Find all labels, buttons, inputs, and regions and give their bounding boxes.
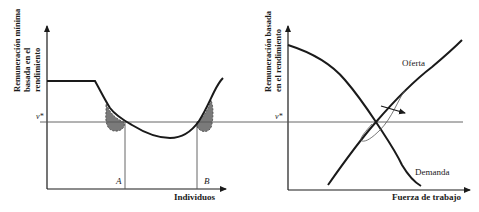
left-y-axis-label: Remuneración mínima basada en el rendimi…	[12, 8, 42, 92]
left-x-axis-label: Individuos	[174, 192, 216, 202]
right-vstar-label: v*	[275, 112, 283, 121]
marker-b-label: B	[204, 176, 210, 186]
svg-text:Remuneración basada: Remuneración basada	[263, 10, 273, 92]
shaded-region-b	[196, 100, 213, 132]
supply-curve	[328, 40, 462, 185]
marker-a-label: A	[115, 176, 122, 186]
svg-text:rendimiento: rendimiento	[32, 48, 42, 92]
svg-text:Remuneración mínima: Remuneración mínima	[12, 8, 22, 92]
right-x-axis-label: Fuerza de trabajo	[392, 192, 461, 202]
supply-label: Oferta	[402, 58, 425, 68]
left-chart: v* A B Individuos Remuneración mínima ba…	[12, 8, 240, 202]
diagram-canvas: v* A B Individuos Remuneración mínima ba…	[0, 0, 479, 212]
svg-text:basada en el: basada en el	[22, 47, 32, 92]
right-y-axis-label: Remuneración basada en el rendimiento	[263, 10, 283, 92]
demand-label: Demanda	[415, 167, 449, 177]
right-chart: v* Oferta Demanda Fuerza de trabajo Remu…	[240, 10, 470, 202]
svg-text:en el rendimiento: en el rendimiento	[273, 29, 283, 92]
left-vstar-label: v*	[36, 112, 44, 121]
